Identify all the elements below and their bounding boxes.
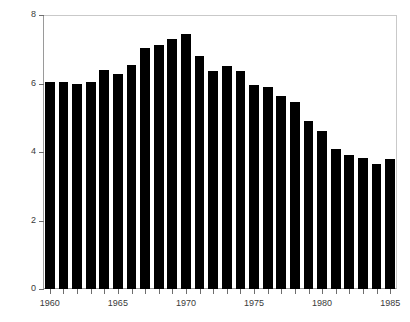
bar-1985 — [385, 159, 395, 289]
x-tick-mark-1964 — [104, 289, 105, 294]
x-tick-label-1960: 1960 — [40, 297, 60, 309]
bars-layer — [43, 15, 397, 289]
x-axis: 196019651970197519801985 — [43, 289, 397, 322]
x-tick-mark-1980 — [322, 289, 323, 294]
x-tick-label-1980: 1980 — [312, 297, 332, 309]
x-tick-mark-1971 — [200, 289, 201, 294]
bar-1975 — [249, 85, 259, 289]
bar-chart: 02468 196019651970197519801985 — [0, 0, 410, 322]
bar-1969 — [167, 39, 177, 289]
x-tick-label-1985: 1985 — [380, 297, 400, 309]
x-tick-mark-1978 — [295, 289, 296, 294]
x-tick-mark-1963 — [91, 289, 92, 294]
bar-1963 — [86, 82, 96, 289]
bar-1977 — [276, 96, 286, 290]
bar-1984 — [372, 164, 382, 289]
y-tick-mark — [39, 15, 44, 16]
x-tick-mark-1970 — [186, 289, 187, 294]
x-tick-mark-1975 — [254, 289, 255, 294]
bar-1971 — [195, 56, 205, 289]
x-tick-mark-1961 — [63, 289, 64, 294]
x-tick-label-1965: 1965 — [108, 297, 128, 309]
x-tick-mark-1960 — [50, 289, 51, 294]
bar-1982 — [344, 155, 354, 289]
bar-1978 — [290, 102, 300, 289]
bar-1960 — [45, 82, 55, 289]
x-tick-mark-1962 — [77, 289, 78, 294]
bar-1983 — [358, 158, 368, 289]
y-tick-mark — [39, 152, 44, 153]
x-tick-mark-1985 — [390, 289, 391, 294]
x-tick-mark-1974 — [240, 289, 241, 294]
x-tick-mark-1968 — [159, 289, 160, 294]
y-tick-label: 4 — [31, 145, 36, 158]
y-tick-8: 8 — [0, 15, 44, 16]
x-tick-mark-1969 — [172, 289, 173, 294]
bar-1968 — [154, 45, 164, 289]
x-tick-mark-1982 — [349, 289, 350, 294]
bar-1976 — [263, 87, 273, 289]
x-tick-mark-1983 — [363, 289, 364, 294]
y-tick-mark — [39, 84, 44, 85]
bar-1967 — [140, 48, 150, 289]
x-tick-mark-1973 — [227, 289, 228, 294]
y-tick-mark — [39, 221, 44, 222]
bar-1981 — [331, 149, 341, 289]
bar-1970 — [181, 34, 191, 289]
y-tick-2: 2 — [0, 221, 44, 222]
y-tick-label: 8 — [31, 8, 36, 21]
x-tick-mark-1984 — [377, 289, 378, 294]
x-tick-mark-1972 — [213, 289, 214, 294]
bar-1980 — [317, 131, 327, 289]
y-tick-label: 2 — [31, 214, 36, 227]
x-tick-mark-1965 — [118, 289, 119, 294]
bar-1972 — [208, 71, 218, 290]
bar-1964 — [99, 70, 109, 289]
y-tick-0: 0 — [0, 289, 44, 290]
x-tick-mark-1976 — [268, 289, 269, 294]
y-tick-6: 6 — [0, 84, 44, 85]
x-tick-mark-1967 — [145, 289, 146, 294]
x-tick-mark-1977 — [281, 289, 282, 294]
x-tick-label-1970: 1970 — [176, 297, 196, 309]
bar-1974 — [236, 71, 246, 290]
y-tick-label: 6 — [31, 77, 36, 90]
x-tick-mark-1966 — [132, 289, 133, 294]
x-tick-mark-1981 — [336, 289, 337, 294]
y-tick-label: 0 — [31, 282, 36, 295]
bar-1966 — [127, 65, 137, 289]
bar-1979 — [304, 121, 314, 289]
bar-1973 — [222, 66, 232, 289]
bar-1962 — [72, 84, 82, 290]
bar-1965 — [113, 74, 123, 289]
x-tick-mark-1979 — [309, 289, 310, 294]
y-axis: 02468 — [0, 0, 44, 322]
y-tick-4: 4 — [0, 152, 44, 153]
x-tick-label-1975: 1975 — [244, 297, 264, 309]
bar-1961 — [59, 82, 69, 289]
